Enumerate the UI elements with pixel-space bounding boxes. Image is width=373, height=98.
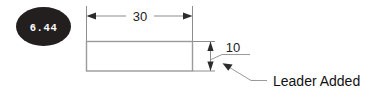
engineering-drawing-canvas: 6.44 30 10 [0,0,373,98]
leader-arrow-icon [223,63,233,71]
arrow-up-icon [207,42,213,52]
horizontal-dimension-value: 30 [133,9,147,24]
part-outline-rectangle [87,42,193,72]
step-number-badge: 6.44 [16,7,71,46]
leader-note-group: Leader Added [223,63,361,89]
arrow-left-icon [87,13,97,20]
arrow-right-icon [183,13,193,20]
leader-note-line [228,67,267,81]
badge-label: 6.44 [30,22,58,34]
arrow-down-icon [207,62,213,72]
technical-drawing-screenshot: 6.44 30 10 [0,0,373,98]
vertical-dimension-leader [211,55,250,60]
leader-note-label: Leader Added [273,73,360,89]
vertical-dimension-value: 10 [226,40,240,55]
horizontal-dimension-group: 30 [87,9,193,24]
